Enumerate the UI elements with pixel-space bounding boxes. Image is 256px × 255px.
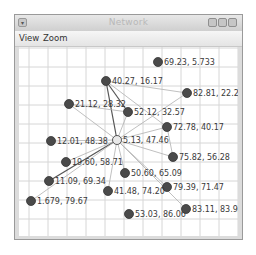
node-label: 50.60, 65.09: [131, 169, 182, 178]
network-graph[interactable]: 69.23, 5.73340.27, 16.1782.81, 22.2421.1…: [19, 47, 238, 236]
node-label: 52.12, 32.57: [134, 108, 185, 117]
node-label: 40.27, 16.17: [112, 77, 163, 86]
node-circle-icon: [183, 89, 192, 98]
node-label: 19.60, 58.71: [72, 158, 123, 167]
close-button[interactable]: [228, 18, 237, 27]
node-circle-icon: [102, 77, 111, 86]
node-circle-icon: [45, 177, 54, 186]
node-circle-icon: [124, 108, 133, 117]
graph-node[interactable]: 50.60, 65.09: [121, 169, 182, 179]
graph-node[interactable]: 41.48, 74.20: [104, 187, 165, 197]
menu-bar: View Zoom: [15, 31, 242, 47]
node-circle-icon: [62, 158, 71, 167]
graph-node[interactable]: 12.01, 48.38: [47, 137, 108, 147]
node-circle-icon: [125, 210, 134, 219]
node-label: 1.679, 79.67: [37, 197, 88, 206]
graph-node[interactable]: 82.81, 22.24: [183, 89, 239, 99]
menu-zoom[interactable]: Zoom: [43, 33, 68, 43]
node-circle-icon: [121, 169, 130, 178]
node-label: 75.82, 56.28: [179, 153, 230, 162]
node-circle-icon: [113, 136, 122, 145]
minimize-button[interactable]: [208, 18, 217, 27]
graph-node[interactable]: 52.12, 32.57: [124, 108, 185, 118]
graph-canvas[interactable]: 69.23, 5.73340.27, 16.1782.81, 22.2421.1…: [19, 47, 238, 236]
node-label: 11.09, 69.34: [55, 177, 106, 186]
node-label: 69.23, 5.733: [164, 58, 215, 67]
graph-node[interactable]: 83.11, 83.93: [182, 205, 239, 215]
menu-view[interactable]: View: [19, 33, 39, 43]
node-circle-icon: [163, 123, 172, 132]
maximize-button[interactable]: [218, 18, 227, 27]
graph-node[interactable]: 75.82, 56.28: [169, 153, 230, 163]
node-circle-icon: [154, 58, 163, 67]
graph-node[interactable]: 79.39, 71.47: [163, 183, 224, 193]
node-circle-icon: [65, 100, 74, 109]
graph-nodes: 69.23, 5.73340.27, 16.1782.81, 22.2421.1…: [27, 58, 239, 220]
node-label: 83.11, 83.93: [192, 205, 238, 214]
node-circle-icon: [182, 205, 191, 214]
node-label: 79.39, 71.47: [173, 183, 224, 192]
graph-node[interactable]: 19.60, 58.71: [62, 158, 123, 168]
node-label: 5.13, 47.46: [123, 136, 169, 145]
node-circle-icon: [169, 153, 178, 162]
node-circle-icon: [47, 137, 56, 146]
node-label: 21.12, 28.32: [75, 100, 126, 109]
node-circle-icon: [27, 197, 36, 206]
node-label: 72.78, 40.17: [173, 123, 224, 132]
title-bar[interactable]: ▾ Network: [15, 15, 242, 32]
network-window: ▾ Network View Zoom 69.23, 5.73340.27, 1…: [14, 14, 243, 240]
graph-node[interactable]: 69.23, 5.733: [154, 58, 215, 68]
node-label: 12.01, 48.38: [57, 137, 108, 146]
node-label: 41.48, 74.20: [114, 187, 165, 196]
node-circle-icon: [104, 187, 113, 196]
graph-node[interactable]: 53.03, 86.06: [125, 210, 186, 220]
node-label: 82.81, 22.24: [193, 89, 238, 98]
node-label: 53.03, 86.06: [135, 210, 186, 219]
